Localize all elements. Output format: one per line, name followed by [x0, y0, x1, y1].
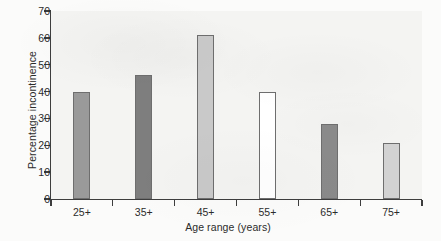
- x-axis-tick-label: 75+: [360, 206, 422, 218]
- x-axis-tick-label: 35+: [113, 206, 175, 218]
- bar: [383, 143, 400, 199]
- x-axis-title: Age range (years): [33, 221, 423, 233]
- plot-area: [51, 11, 422, 199]
- x-axis-tick-label: 45+: [175, 206, 237, 218]
- x-axis-tick-label: 65+: [298, 206, 360, 218]
- y-axis-tick-label: 60: [8, 32, 50, 44]
- y-axis-tick-label: 40: [8, 86, 50, 98]
- bar: [197, 35, 214, 199]
- bar: [259, 92, 276, 199]
- x-axis-tick-label: 25+: [51, 206, 113, 218]
- y-axis-tick-label: 20: [8, 139, 50, 151]
- y-axis-tick-label: 0: [8, 193, 50, 205]
- bar: [73, 92, 90, 199]
- bar: [321, 124, 338, 199]
- y-axis-tick-label: 70: [8, 5, 50, 17]
- y-axis-spine: [50, 10, 51, 200]
- x-axis-tick-label: 55+: [236, 206, 298, 218]
- y-axis-tick-label: 50: [8, 59, 50, 71]
- bar: [135, 75, 152, 199]
- y-axis-tick-label: 30: [8, 112, 50, 124]
- y-axis-tick-label: 10: [8, 166, 50, 178]
- bar-chart-figure: Percentage incontinence 010203040506070 …: [0, 0, 441, 241]
